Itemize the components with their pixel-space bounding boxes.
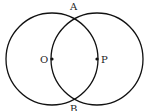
label-p: P (101, 54, 108, 65)
diagram-canvas: A B O P (0, 0, 144, 111)
label-b: B (70, 103, 77, 111)
point-o-dot (50, 57, 53, 60)
label-a: A (69, 1, 78, 12)
label-o: O (40, 54, 48, 65)
point-p-dot (95, 57, 98, 60)
